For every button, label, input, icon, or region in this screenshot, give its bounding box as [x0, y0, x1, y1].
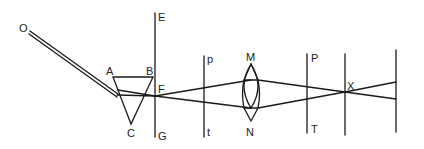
label-p-small: p	[207, 53, 213, 65]
label-P: P	[311, 52, 318, 64]
label-t-small: t	[207, 126, 210, 138]
label-g: G	[158, 130, 167, 142]
label-e: E	[158, 11, 165, 23]
label-n: N	[246, 126, 254, 138]
incident-beam	[29, 31, 118, 97]
label-c: C	[127, 127, 135, 139]
label-m: M	[246, 51, 255, 63]
rays-to-lens	[155, 80, 251, 108]
label-b: B	[146, 65, 153, 77]
optics-diagram: O A B C E F G p t M N P T X	[0, 0, 424, 149]
label-f: F	[158, 83, 165, 95]
label-T: T	[311, 123, 318, 135]
rays-to-focus	[258, 80, 345, 108]
lens	[243, 64, 260, 121]
prism-rays	[117, 90, 155, 96]
label-a: A	[106, 65, 114, 77]
label-o: O	[19, 22, 28, 34]
prism	[113, 77, 153, 124]
